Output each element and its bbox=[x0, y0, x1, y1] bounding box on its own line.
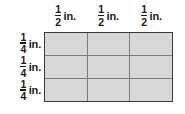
unit-label: in. bbox=[64, 10, 76, 22]
fraction-numerator: 1 bbox=[20, 79, 26, 89]
grid-cell bbox=[45, 79, 88, 101]
row-labels-group: 1 4 in. 1 4 in. 1 4 in. bbox=[0, 32, 43, 102]
row-label-2: 1 4 in. bbox=[0, 55, 43, 78]
fraction-one-half: 1 2 bbox=[141, 4, 147, 26]
grid-cell bbox=[88, 33, 131, 55]
column-labels-group: 1 2 in. 1 2 in. 1 2 in. bbox=[44, 2, 173, 30]
fraction-one-fourth: 1 4 bbox=[20, 79, 26, 101]
fraction-numerator: 1 bbox=[141, 4, 147, 14]
fraction-one-fourth: 1 4 bbox=[20, 32, 26, 54]
row-label-3: 1 4 in. bbox=[0, 79, 43, 102]
unit-label: in. bbox=[107, 10, 119, 22]
grid-row bbox=[45, 33, 172, 56]
measurement-grid-figure: 1 2 in. 1 2 in. 1 2 in. bbox=[0, 0, 185, 114]
grid-cell bbox=[130, 79, 172, 101]
fraction-one-half: 1 2 bbox=[55, 4, 61, 26]
grid-cell bbox=[45, 56, 88, 78]
partitioned-rectangle bbox=[44, 32, 173, 102]
unit-label: in. bbox=[29, 38, 41, 50]
unit-label: in. bbox=[29, 61, 41, 73]
fraction-numerator: 1 bbox=[20, 55, 26, 65]
fraction-one-half: 1 2 bbox=[98, 4, 104, 26]
column-label-3: 1 2 in. bbox=[130, 2, 173, 30]
grid-cell bbox=[88, 79, 131, 101]
column-label-2: 1 2 in. bbox=[87, 2, 130, 30]
fraction-denominator: 4 bbox=[20, 91, 26, 101]
fraction-denominator: 4 bbox=[20, 68, 26, 78]
grid-cell bbox=[45, 33, 88, 55]
grid-row bbox=[45, 56, 172, 79]
unit-label: in. bbox=[29, 84, 41, 96]
grid-cell bbox=[130, 56, 172, 78]
unit-label: in. bbox=[150, 10, 162, 22]
fraction-numerator: 1 bbox=[20, 32, 26, 42]
fraction-denominator: 2 bbox=[141, 17, 147, 27]
fraction-numerator: 1 bbox=[55, 4, 61, 14]
row-label-1: 1 4 in. bbox=[0, 32, 43, 55]
fraction-denominator: 2 bbox=[55, 17, 61, 27]
fraction-denominator: 2 bbox=[98, 17, 104, 27]
fraction-numerator: 1 bbox=[98, 4, 104, 14]
fraction-one-fourth: 1 4 bbox=[20, 55, 26, 77]
grid-row bbox=[45, 79, 172, 101]
grid-cell bbox=[88, 56, 131, 78]
fraction-denominator: 4 bbox=[20, 44, 26, 54]
column-label-1: 1 2 in. bbox=[44, 2, 87, 30]
grid-cell bbox=[130, 33, 172, 55]
